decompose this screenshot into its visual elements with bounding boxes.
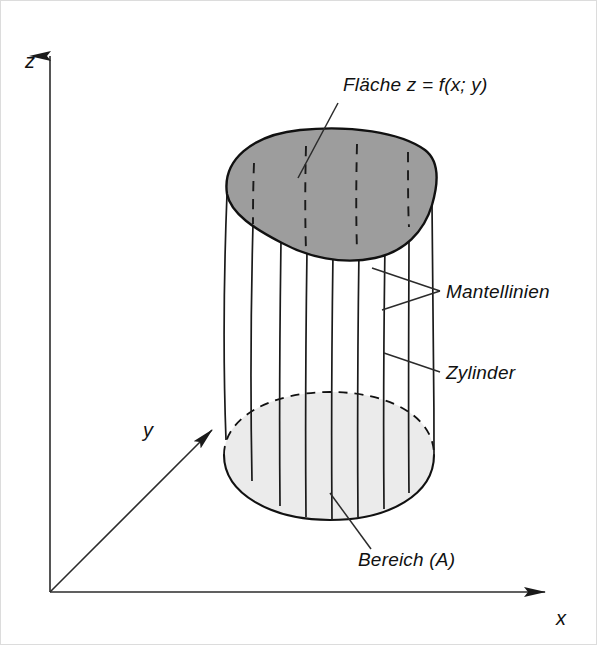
y-axis-label: y <box>141 419 154 441</box>
flaeche-label: Fläche z = f(x; y) <box>343 74 488 95</box>
cylinder-solid <box>223 128 437 538</box>
base-region-fill <box>224 392 434 520</box>
base-region <box>224 392 434 520</box>
x-axis-label: x <box>555 607 567 629</box>
zylinder-label: Zylinder <box>445 362 516 383</box>
z-axis-label: z <box>24 50 35 72</box>
mantellinien-label: Mantellinien <box>446 281 550 302</box>
figure-canvas: z y x <box>0 0 597 645</box>
diagram-svg: z y x <box>0 0 597 645</box>
bereich-label: Bereich (A) <box>358 549 455 570</box>
